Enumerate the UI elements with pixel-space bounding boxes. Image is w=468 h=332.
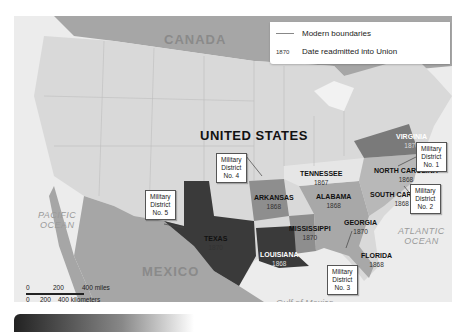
scale-bar: 0 200 400 miles 0 200 400 kilometers (26, 284, 126, 304)
pacific-ocean-label: PACIFIC OCEAN (38, 210, 76, 230)
united-states-label: UNITED STATES (200, 128, 308, 143)
state-florida: FLORIDA1868 (361, 251, 392, 269)
state-arkansas: ARKANSAS1868 (254, 193, 294, 211)
map-legend: Modern boundaries 1870 Date readmitted i… (270, 22, 450, 64)
state-georgia: GEORGIA1870 (344, 218, 377, 236)
legend-boundaries: Modern boundaries (276, 29, 371, 38)
scale-miles: 0 200 400 miles (26, 284, 116, 292)
state-louisiana: LOUISIANA1868 (260, 250, 299, 268)
mexico-label: MEXICO (142, 264, 199, 279)
scale-line (26, 293, 84, 295)
military-district-4: MilitaryDistrictNo. 4 (216, 153, 247, 183)
state-mississippi: MISSISSIPPI1870 (289, 224, 331, 242)
military-district-1: MilitaryDistrictNo. 1 (416, 142, 447, 172)
gulf-of-mexico-label: Gulf of Mexico (276, 298, 334, 302)
atlantic-ocean-label: ATLANTIC OCEAN (398, 226, 445, 246)
state-alabama: ALABAMA1868 (316, 192, 351, 210)
state-tennessee: TENNESSEE1867 (300, 169, 342, 187)
military-district-3: MilitaryDistrictNo. 3 (327, 265, 358, 295)
state-texas: TEXAS1870 (204, 234, 227, 252)
boundary-line-swatch (276, 33, 294, 34)
caption-bar-decoration (14, 314, 194, 332)
canada-label: CANADA (164, 32, 226, 47)
military-district-2: MilitaryDistrictNo. 2 (410, 184, 441, 214)
legend-readmission: 1870 Date readmitted into Union (276, 47, 397, 56)
scale-km: 0 200 400 kilometers (26, 296, 126, 304)
military-district-5: MilitaryDistrictNo. 5 (145, 190, 176, 220)
